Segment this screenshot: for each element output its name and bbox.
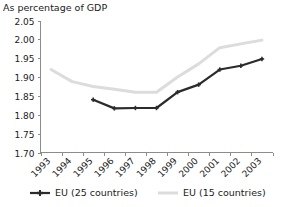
x-tick-label: 1993 bbox=[29, 156, 52, 179]
y-tick-label: 1.95 bbox=[14, 54, 34, 64]
x-tick-label: 2002 bbox=[219, 156, 242, 179]
x-axis-tick-labels: 1993199419951996199719981999200020012002… bbox=[29, 156, 263, 179]
y-tick-label: 1.90 bbox=[14, 73, 34, 83]
chart-legend: EU (25 countries)EU (15 countries) bbox=[30, 187, 266, 198]
x-tick-label: 2003 bbox=[240, 156, 263, 179]
x-tick-label: 1999 bbox=[156, 156, 179, 179]
x-tick-label: 1998 bbox=[135, 156, 158, 179]
x-tick-label: 2001 bbox=[198, 156, 221, 179]
y-tick-label: 1.70 bbox=[14, 149, 34, 159]
chart-plot-svg: 1.701.751.801.851.901.952.002.05 1993199… bbox=[0, 0, 283, 207]
y-tick-label: 1.75 bbox=[14, 130, 34, 140]
x-tick-label: 1997 bbox=[114, 156, 137, 179]
series-eu25-line bbox=[91, 57, 264, 111]
x-tick-label: 2000 bbox=[177, 156, 200, 179]
series-eu15-line bbox=[51, 40, 262, 92]
y-tick-label: 1.85 bbox=[14, 92, 34, 102]
y-tick-label: 2.05 bbox=[14, 17, 34, 27]
chart-container: As percentage of GDP 1.701.751.801.851.9… bbox=[0, 0, 283, 207]
legend-label: EU (15 countries) bbox=[183, 187, 266, 198]
y-tick-label: 1.80 bbox=[14, 111, 34, 121]
legend-label: EU (25 countries) bbox=[55, 187, 138, 198]
y-tick-label: 2.00 bbox=[14, 35, 34, 45]
y-axis-tick-labels: 1.701.751.801.851.901.952.002.05 bbox=[14, 17, 34, 159]
x-tick-label: 1994 bbox=[50, 156, 73, 179]
x-tick-label: 1996 bbox=[92, 156, 115, 179]
series-path bbox=[51, 40, 262, 92]
series-path bbox=[93, 59, 262, 108]
x-tick-label: 1995 bbox=[71, 156, 94, 179]
